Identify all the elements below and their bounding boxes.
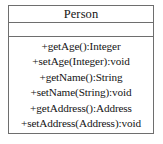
operation-item: +getAddress():Address [30,101,132,116]
diagram-canvas: Person +getAge():Integer +setAge(Integer… [0,0,163,144]
operation-item: +setAddress(Address):void [21,116,141,131]
class-attributes-compartment [9,23,153,37]
operation-item: +getName():String [40,70,123,85]
class-operations-compartment: +getAge():Integer +setAge(Integer):void … [9,37,153,133]
operation-item: +setName(String):void [30,85,131,100]
class-name-label: Person [64,8,99,21]
operation-item: +setAge(Integer):void [32,54,129,69]
uml-class-person[interactable]: Person +getAge():Integer +setAge(Integer… [8,5,154,134]
operation-item: +getAge():Integer [41,39,120,54]
class-name-compartment: Person [9,6,153,23]
